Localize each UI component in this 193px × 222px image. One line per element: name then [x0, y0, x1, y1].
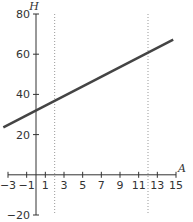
x-tick-label: −3 — [0, 179, 16, 192]
x-tick-label: 15 — [169, 179, 183, 192]
x-tick-label: 5 — [79, 179, 86, 192]
x-tick-label: 7 — [98, 179, 105, 192]
x-tick-label: 1 — [42, 179, 49, 192]
y-tick-label: 60 — [16, 48, 30, 61]
y-tick-label: 80 — [16, 8, 30, 21]
x-tick-label: 11 — [132, 179, 146, 192]
x-tick-label: 3 — [61, 179, 68, 192]
x-axis-label: A — [177, 162, 186, 175]
x-tick-label: 9 — [117, 179, 124, 192]
line-chart: −3−113579111315−2020406080HA — [0, 0, 193, 222]
y-tick-label: −20 — [7, 209, 30, 222]
x-tick-label: −1 — [19, 179, 35, 192]
x-tick-label: 13 — [150, 179, 164, 192]
y-tick-label: 20 — [16, 129, 30, 142]
y-axis-label: H — [28, 0, 39, 13]
y-tick-label: 40 — [16, 88, 30, 101]
